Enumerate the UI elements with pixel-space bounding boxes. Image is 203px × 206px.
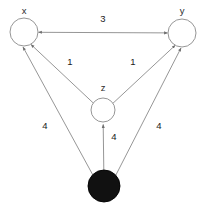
node-source-filled[interactable] (88, 170, 120, 202)
edge-weight-s-z: 4 (111, 131, 116, 142)
edge-weight-x-y: 3 (100, 13, 105, 24)
node-x[interactable] (10, 18, 38, 46)
node-label-z: z (101, 82, 106, 93)
edge-s-y (116, 48, 181, 175)
edge-s-x (23, 47, 93, 175)
edge-s-z (103, 125, 104, 171)
nodes-group (10, 18, 196, 202)
edge-z-x (31, 45, 94, 104)
edge-weight-s-x: 4 (42, 120, 47, 131)
graph-figure: x y z 3 1 1 4 4 4 (0, 0, 203, 206)
edge-x-y (39, 32, 168, 33)
edge-weight-z-x: 1 (67, 56, 72, 67)
edge-weight-z-y: 1 (130, 56, 135, 67)
edge-weight-s-y: 4 (156, 120, 161, 131)
node-label-x: x (22, 5, 27, 16)
node-label-y: y (180, 5, 185, 16)
node-z[interactable] (91, 98, 115, 122)
edge-z-y (113, 45, 176, 103)
graph-canvas: x y z 3 1 1 4 4 4 (0, 0, 203, 206)
node-y[interactable] (168, 19, 196, 47)
